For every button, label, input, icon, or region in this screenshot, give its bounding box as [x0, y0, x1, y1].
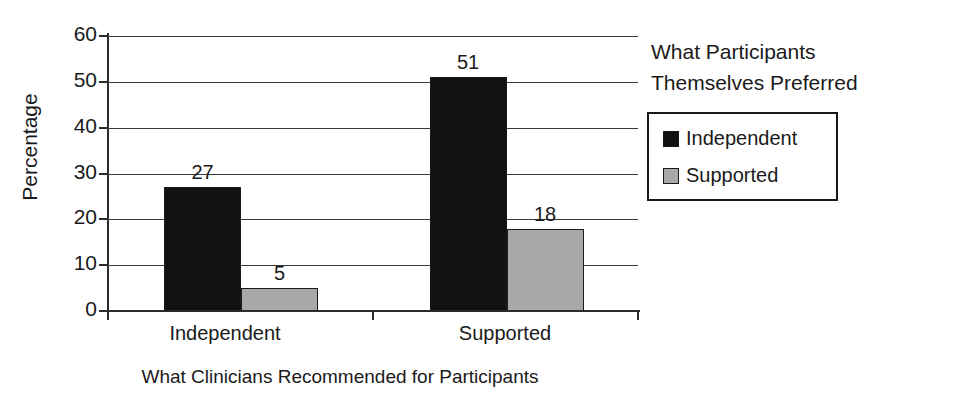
bar-independent-independent[interactable]: 27 — [164, 187, 241, 311]
y-tick-label-20: 20 — [0, 205, 97, 229]
legend-title: What Participants Themselves Preferred — [651, 36, 858, 98]
y-tick-label-30: 30 — [0, 160, 97, 184]
legend-box: Independent Supported — [647, 112, 838, 201]
bar-chart-figure: Percentage 6050403020100 2755118 Indepen… — [0, 0, 957, 419]
legend-title-line-2: Themselves Preferred — [651, 67, 858, 98]
y-tick-mark-10 — [99, 264, 107, 266]
gridline-50 — [107, 82, 638, 83]
y-tick-mark-40 — [99, 127, 107, 129]
y-tick-mark-30 — [99, 173, 107, 175]
y-tick-mark-50 — [99, 81, 107, 83]
y-tick-mark-60 — [99, 35, 107, 37]
y-tick-label-60: 60 — [0, 22, 97, 46]
y-tick-mark-0 — [99, 310, 107, 312]
bar-value-label: 5 — [274, 262, 285, 285]
legend-entry-independent[interactable]: Independent — [663, 127, 797, 150]
legend-swatch-icon-supported — [663, 168, 679, 184]
x-axis-tick-start — [107, 311, 109, 320]
bar-supported-independent[interactable]: 51 — [430, 77, 507, 311]
legend-title-line-1: What Participants — [651, 36, 858, 67]
y-tick-mark-20 — [99, 218, 107, 220]
y-tick-label-40: 40 — [0, 114, 97, 138]
legend-swatch-icon-independent — [663, 131, 679, 147]
bar-independent-supported[interactable]: 5 — [241, 288, 318, 311]
gridline-30 — [107, 174, 638, 175]
legend-label-supported: Supported — [686, 164, 778, 187]
bar-value-label: 18 — [534, 203, 556, 226]
x-axis-tick-mid — [372, 311, 374, 320]
plot-area: 2755118 — [107, 36, 638, 311]
y-tick-label-0: 0 — [0, 297, 97, 321]
legend-entry-supported[interactable]: Supported — [663, 164, 778, 187]
gridline-40 — [107, 128, 638, 129]
bar-value-label: 51 — [457, 51, 479, 74]
gridline-60 — [107, 36, 638, 37]
y-tick-label-10: 10 — [0, 251, 97, 275]
legend-label-independent: Independent — [686, 127, 797, 150]
x-axis-title: What Clinicians Recommended for Particip… — [40, 366, 640, 388]
bar-value-label: 27 — [191, 161, 213, 184]
x-axis-tick-end — [637, 311, 639, 320]
bar-supported-supported[interactable]: 18 — [507, 229, 584, 312]
x-category-label-supported: Supported — [415, 322, 595, 345]
y-tick-label-50: 50 — [0, 68, 97, 92]
x-category-label-independent: Independent — [135, 322, 315, 345]
